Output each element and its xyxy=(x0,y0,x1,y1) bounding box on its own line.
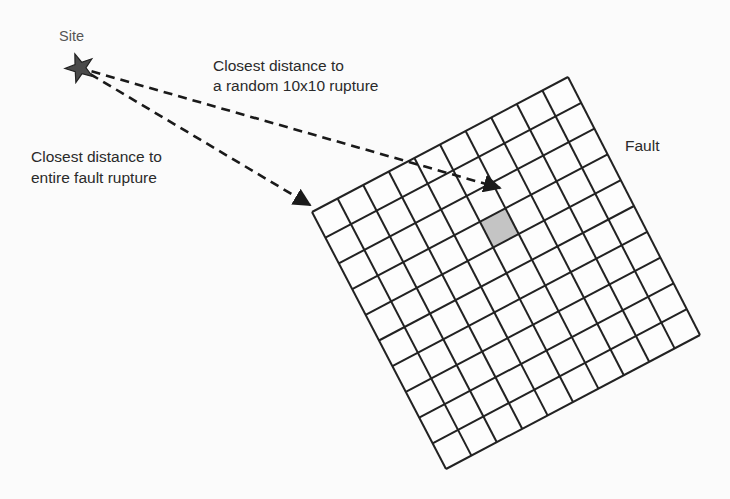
random-rupture-label-line1: Closest distance to xyxy=(213,56,344,75)
entire-fault-label-line2: entire fault rupture xyxy=(31,168,157,187)
diagram-canvas xyxy=(0,0,730,499)
entire-fault-label-line1: Closest distance to xyxy=(31,147,162,166)
fault-label: Fault xyxy=(625,136,659,155)
star-icon xyxy=(65,54,92,83)
site-label: Site xyxy=(59,27,84,46)
random-rupture-label-line2: a random 10x10 rupture xyxy=(213,76,378,95)
